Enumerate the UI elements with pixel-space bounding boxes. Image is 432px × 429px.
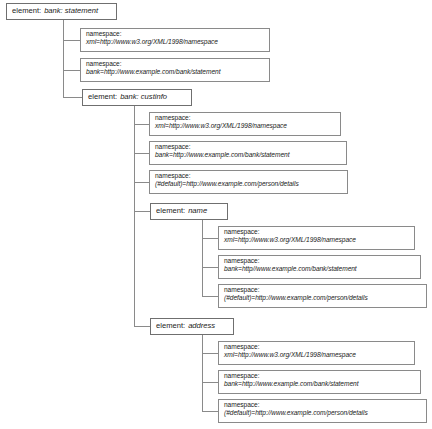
namespace-binding-text: (#default)=http://www.example.com/person… xyxy=(224,409,422,417)
node-kind-label: namespace: xyxy=(224,343,410,351)
node-kind-label: namespace: xyxy=(155,114,336,122)
namespace-binding-text: xml=http://www.w3.org/XML/1998/namespace xyxy=(224,236,410,244)
node-kind-label: namespace: xyxy=(86,60,265,68)
element-name-text: name xyxy=(188,207,207,216)
namespace-binding-text: bank=http//www.example.com/bank/statemen… xyxy=(224,265,416,273)
element-node-name-element[interactable]: element:name xyxy=(150,203,228,220)
namespace-binding-text: xml=http://www.w3.org/XML/1998/namespace xyxy=(155,122,336,130)
namespace-binding-text: bank=http://www.example.com/bank/stateme… xyxy=(155,151,342,159)
node-kind-label: element: xyxy=(156,322,185,331)
node-kind-label: namespace: xyxy=(224,372,416,380)
namespace-binding-text: xml=http://www.w3.org/XML/1998/namespace xyxy=(224,351,410,359)
namespace-node-address-ns-bank[interactable]: namespace:bank=http://www.example.com/ba… xyxy=(218,370,421,394)
node-kind-label: namespace: xyxy=(155,143,342,151)
node-kind-label: namespace: xyxy=(224,228,410,236)
node-kind-label: element: xyxy=(156,207,185,216)
namespace-binding-text: bank=http://www.example.com/bank/stateme… xyxy=(86,68,265,76)
element-node-root-element[interactable]: element:bank: statement xyxy=(6,3,117,20)
node-kind-label: element: xyxy=(88,93,117,102)
node-kind-label: namespace: xyxy=(86,30,265,38)
namespace-node-address-ns-xml[interactable]: namespace:xml=http://www.w3.org/XML/1998… xyxy=(218,341,415,365)
node-kind-label: element: xyxy=(12,7,41,16)
namespace-node-root-ns-xml[interactable]: namespace:xml=http://www.w3.org/XML/1998… xyxy=(80,28,270,52)
element-name-text: bank: statement xyxy=(44,7,98,16)
namespace-node-name-ns-bank[interactable]: namespace:bank=http//www.example.com/ban… xyxy=(218,255,421,279)
node-kind-label: namespace: xyxy=(155,172,343,180)
namespace-node-name-ns-xml[interactable]: namespace:xml=http://www.w3.org/XML/1998… xyxy=(218,226,415,250)
namespace-binding-text: xml=http://www.w3.org/XML/1998/namespace xyxy=(86,38,265,46)
element-name-text: address xyxy=(188,322,215,331)
namespace-binding-text: bank=http://www.example.com/bank/stateme… xyxy=(224,380,416,388)
element-name-text: bank: custinfo xyxy=(120,93,167,102)
node-kind-label: namespace: xyxy=(224,257,416,265)
element-node-custinfo-element[interactable]: element:bank: custinfo xyxy=(82,89,192,106)
namespace-binding-text: (#default)=http://www.example.com/person… xyxy=(224,294,422,302)
namespace-node-root-ns-bank[interactable]: namespace:bank=http://www.example.com/ba… xyxy=(80,58,270,82)
node-kind-label: namespace: xyxy=(224,286,422,294)
element-node-address-element[interactable]: element:address xyxy=(150,318,234,335)
namespace-scope-diagram: element:bank: statementnamespace:xml=htt… xyxy=(0,0,432,429)
namespace-node-address-ns-default[interactable]: namespace:(#default)=http://www.example.… xyxy=(218,399,427,423)
namespace-node-custinfo-ns-bank[interactable]: namespace:bank=http://www.example.com/ba… xyxy=(149,141,347,165)
namespace-node-name-ns-default[interactable]: namespace:(#default)=http://www.example.… xyxy=(218,284,427,308)
node-kind-label: namespace: xyxy=(224,401,422,409)
namespace-node-custinfo-ns-default[interactable]: namespace:(#default)=http://www.example.… xyxy=(149,170,348,194)
namespace-node-custinfo-ns-xml[interactable]: namespace:xml=http://www.w3.org/XML/1998… xyxy=(149,112,341,136)
namespace-binding-text: (#default)=http://www.example.com/person… xyxy=(155,180,343,188)
